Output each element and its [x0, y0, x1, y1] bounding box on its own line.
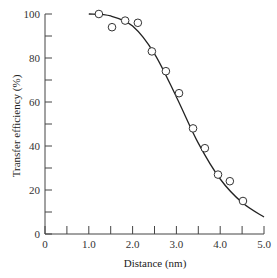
data-point — [148, 48, 156, 56]
data-point — [134, 19, 142, 27]
x-tick-label: 5.0 — [257, 238, 271, 250]
data-points — [95, 10, 247, 205]
data-point — [226, 177, 234, 185]
x-tick-label: 3.0 — [170, 238, 184, 250]
x-tick-label: 4.0 — [213, 238, 227, 250]
x-axis-label: Distance (nm) — [124, 257, 187, 270]
x-tick-label: 0 — [42, 238, 48, 250]
data-point — [239, 197, 247, 205]
data-point — [175, 89, 183, 97]
data-point — [189, 125, 197, 133]
x-tick-label: 2.0 — [126, 238, 140, 250]
fit-curve — [89, 14, 264, 217]
data-point — [95, 10, 103, 18]
y-tick-label: 20 — [29, 184, 41, 196]
y-tick-label: 60 — [29, 96, 41, 108]
data-point — [121, 17, 129, 25]
x-axis: 01.02.03.04.05.0 — [42, 226, 271, 250]
x-tick-label: 1.0 — [82, 238, 96, 250]
data-point — [108, 23, 116, 31]
y-tick-label: 0 — [35, 228, 41, 240]
y-axis: 020406080100 — [24, 8, 53, 240]
y-axis-label: Transfer efficiency (%) — [10, 74, 23, 177]
chart: 020406080100 01.02.03.04.05.0 Distance (… — [0, 0, 277, 278]
data-point — [201, 144, 209, 152]
data-point — [214, 171, 222, 179]
data-point — [162, 67, 170, 75]
y-tick-label: 80 — [29, 52, 41, 64]
y-tick-label: 40 — [29, 140, 41, 152]
y-tick-label: 100 — [24, 8, 41, 20]
